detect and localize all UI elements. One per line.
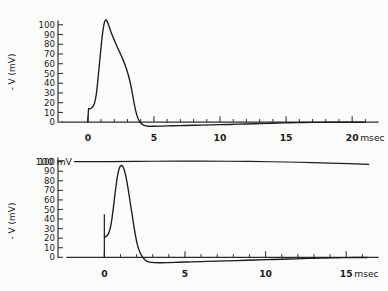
top-y-tick-label-100: 100 [39,20,55,30]
chart-panel-top: 0102030405060708090100 05101520 - V (mV)… [0,0,388,145]
bottom-x-tick-label-0: 0 [101,268,107,279]
bottom-panel-svg: 0102030405060708090100 051015 - V (mV) m… [0,145,388,291]
bottom-y-tick-label-20: 20 [44,233,55,243]
bottom-y-tick-label-10: 10 [44,243,55,253]
top-action-potential-trace [88,20,366,126]
bottom-y-tick-label-90: 90 [44,166,55,176]
bottom-y-tick-label-0: 0 [50,252,55,262]
figure-container: 0102030405060708090100 05101520 - V (mV)… [0,0,388,291]
top-x-tick-label-10: 10 [214,132,227,143]
bottom-y-tick-label-50: 50 [44,205,55,215]
top-y-tick-label-70: 70 [44,49,55,59]
top-y-tick-labels: 0102030405060708090100 [39,20,55,127]
bottom-y-tick-label-30: 30 [44,224,55,234]
scale-annotation-label: 100 mV [36,156,73,167]
bottom-reference-trace [110,161,369,164]
top-y-tick-label-60: 60 [44,59,55,69]
top-y-tick-marks [58,25,63,122]
bottom-y-tick-label-70: 70 [44,185,55,195]
top-x-axis: 05101520 [62,116,378,143]
top-x-tick-label-15: 15 [280,132,293,143]
bottom-action-potential-trace [104,165,367,262]
bottom-y-tick-label-80: 80 [44,176,55,186]
top-y-tick-label-10: 10 [44,108,55,118]
top-x-tick-label-20: 20 [346,132,359,143]
top-x-tick-labels: 05101520 [85,132,359,143]
top-x-axis-unit-label: msec [360,132,384,143]
top-y-tick-label-50: 50 [44,69,55,79]
top-y-tick-label-40: 40 [44,78,55,88]
top-x-tick-label-0: 0 [85,132,91,143]
bottom-x-axis: 051015 [67,251,378,279]
top-y-tick-label-30: 30 [44,88,55,98]
top-y-tick-label-90: 90 [44,30,55,40]
top-x-tick-marks [88,116,366,122]
top-y-axis: 0102030405060708090100 [39,20,63,127]
bottom-x-tick-labels: 051015 [101,268,352,279]
chart-panel-bottom: 0102030405060708090100 051015 - V (mV) m… [0,145,388,291]
bottom-x-tick-label-5: 5 [182,268,188,279]
bottom-y-tick-label-40: 40 [44,214,55,224]
top-y-tick-label-80: 80 [44,39,55,49]
bottom-y-axis: 0102030405060708090100 [39,157,63,263]
top-x-tick-label-5: 5 [151,132,157,143]
bottom-y-tick-label-60: 60 [44,195,55,205]
bottom-y-tick-labels: 0102030405060708090100 [39,157,55,263]
bottom-x-tick-label-10: 10 [259,268,272,279]
bottom-y-tick-marks [58,162,63,258]
top-panel-svg: 0102030405060708090100 05101520 - V (mV)… [0,0,388,145]
bottom-x-axis-unit-label: msec [354,268,378,279]
bottom-y-axis-title: - V (mV) [7,202,17,239]
top-y-tick-label-0: 0 [50,117,55,127]
top-y-tick-label-20: 20 [44,98,55,108]
bottom-x-tick-marks [104,251,362,257]
top-y-axis-title: - V (mV) [7,53,17,90]
bottom-x-tick-label-15: 15 [340,268,353,279]
